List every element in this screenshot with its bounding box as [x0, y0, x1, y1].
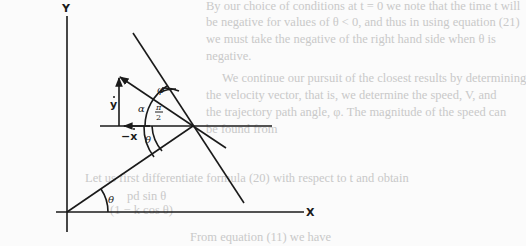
phi-label: φ [157, 84, 164, 95]
y-axis-label: Y [61, 2, 71, 15]
tangent-line [133, 33, 244, 203]
theta-arc-origin [101, 189, 108, 212]
x-dot-marker [133, 128, 135, 130]
theta-label-point: θ [145, 134, 151, 145]
y-dot-marker [113, 96, 115, 98]
y-dot-label: y [110, 98, 117, 111]
velocity-line [193, 126, 226, 148]
theta-label-origin: θ [108, 194, 114, 205]
x-dot-label: −x [121, 130, 137, 143]
two-label: 2 [156, 113, 161, 122]
pi-label: π [155, 103, 162, 112]
alpha-label: α [138, 103, 145, 114]
x-axis-label: X [306, 206, 315, 219]
